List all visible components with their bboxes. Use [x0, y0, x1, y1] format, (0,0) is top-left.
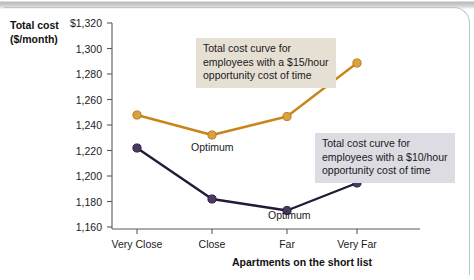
- x-axis-title: Apartments on the short list: [232, 256, 372, 268]
- callout-10-line3: opportunity cost of time: [322, 164, 448, 178]
- x-tick-label-very-close: Very Close: [97, 238, 177, 251]
- y-tick-label-5: 1,220: [52, 145, 102, 158]
- callout-15-per-hour: Total cost curve for employees with a $1…: [196, 38, 336, 88]
- x-tick-marks: [137, 229, 357, 234]
- y-tick-label-8: 1,160: [52, 221, 102, 234]
- chart-figure: Total cost ($/month) Apartments on the s…: [0, 0, 474, 280]
- callout-10-per-hour: Total cost curve for employees with a $1…: [315, 133, 455, 183]
- optimum-label-15-per-hour: Optimum: [191, 141, 234, 153]
- y-tick-label-3: 1,260: [52, 94, 102, 107]
- y-tick-marks: [107, 23, 112, 227]
- y-tick-label-1: 1,300: [52, 43, 102, 56]
- optimum-label-10-per-hour: Optimum: [268, 209, 311, 221]
- y-tick-label-6: 1,200: [52, 170, 102, 183]
- x-tick-label-close: Close: [172, 238, 252, 251]
- y-tick-label-2: 1,280: [52, 68, 102, 81]
- x-tick-label-very-far: Very Far: [317, 238, 397, 251]
- callout-15-line3: opportunity cost of time: [203, 69, 329, 83]
- y-tick-label-0: $1,320: [52, 17, 102, 30]
- callout-15-line2: employees with a $15/hour: [203, 56, 329, 70]
- y-tick-label-4: 1,240: [52, 119, 102, 132]
- y-tick-label-7: 1,180: [52, 196, 102, 209]
- callout-10-line2: employees with a $10/hour: [322, 151, 448, 165]
- callout-15-line1: Total cost curve for: [203, 42, 329, 56]
- x-tick-label-far: Far: [247, 238, 327, 251]
- callout-10-line1: Total cost curve for: [322, 137, 448, 151]
